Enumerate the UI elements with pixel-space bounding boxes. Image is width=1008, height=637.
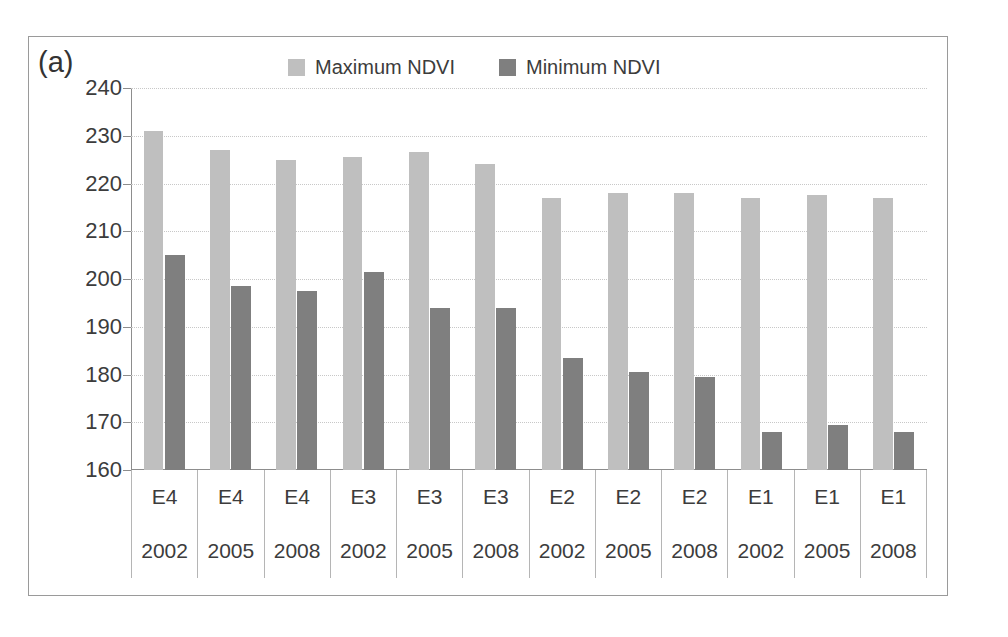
y-axis-tick [123,231,131,232]
legend-swatch-maximum-icon [288,59,305,76]
chart-legend: Maximum NDVI Minimum NDVI [288,56,660,79]
x-axis-site-label: E2 [662,470,727,524]
bar-minimum-ndvi[interactable] [430,308,450,470]
bar-maximum-ndvi[interactable] [475,164,495,470]
bar-group [264,88,330,470]
x-axis-category-cell: E22005 [595,470,661,578]
bar-group [662,88,728,470]
x-axis-year-label: 2002 [530,524,595,578]
x-axis-year-label: 2002 [132,524,197,578]
x-axis-year-label: 2005 [795,524,860,578]
bar-minimum-ndvi[interactable] [297,291,317,470]
bars-layer [131,88,927,470]
x-axis-site-label: E1 [795,470,860,524]
bar-group [529,88,595,470]
x-axis-category-cell: E22008 [661,470,727,578]
y-axis-tick [123,136,131,137]
x-axis-year-label: 2005 [596,524,661,578]
x-axis-site-label: E2 [596,470,661,524]
x-axis-year-label: 2008 [463,524,528,578]
bar-maximum-ndvi[interactable] [343,157,363,470]
x-axis-site-label: E3 [463,470,528,524]
x-axis-year-label: 2005 [198,524,263,578]
x-axis-site-label: E3 [397,470,462,524]
x-axis-site-label: E1 [728,470,793,524]
y-axis-tick [123,375,131,376]
legend-swatch-minimum-icon [499,59,516,76]
bar-group [396,88,462,470]
bar-group [861,88,927,470]
x-axis-site-label: E4 [132,470,197,524]
bar-maximum-ndvi[interactable] [409,152,429,470]
bar-maximum-ndvi[interactable] [807,195,827,470]
y-axis-tick-labels: 240230220210200190180170160 [46,72,122,502]
x-axis-year-label: 2002 [331,524,396,578]
legend-label-maximum: Maximum NDVI [315,56,455,79]
y-axis-tick-label: 240 [85,75,122,101]
bar-minimum-ndvi[interactable] [695,377,715,470]
x-axis-category-table: E42002E42005E42008E32002E32005E32008E220… [131,470,927,578]
x-axis-category-cell: E12002 [727,470,793,578]
bar-minimum-ndvi[interactable] [563,358,583,470]
x-axis-category-cell: E32002 [330,470,396,578]
legend-entry-minimum[interactable]: Minimum NDVI [499,56,660,79]
x-axis-year-label: 2008 [265,524,330,578]
x-axis-category-cell: E42008 [264,470,330,578]
x-axis-category-cell: E42002 [131,470,197,578]
bar-group [794,88,860,470]
legend-entry-maximum[interactable]: Maximum NDVI [288,56,455,79]
y-axis-tick [123,327,131,328]
bar-minimum-ndvi[interactable] [629,372,649,470]
bar-maximum-ndvi[interactable] [873,198,893,470]
x-axis-site-label: E3 [331,470,396,524]
x-axis-category-cell: E22002 [529,470,595,578]
bar-group [330,88,396,470]
bar-group [595,88,661,470]
bar-maximum-ndvi[interactable] [741,198,761,470]
x-axis-category-cell: E12008 [860,470,927,578]
y-axis-tick-label: 170 [85,409,122,435]
x-axis-site-label: E4 [265,470,330,524]
x-axis-category-cell: E32008 [462,470,528,578]
bar-group [131,88,197,470]
bar-minimum-ndvi[interactable] [496,308,516,470]
bar-maximum-ndvi[interactable] [542,198,562,470]
bar-maximum-ndvi[interactable] [674,193,694,470]
y-axis-tick [123,184,131,185]
y-axis-tick [123,422,131,423]
bar-minimum-ndvi[interactable] [231,286,251,470]
bar-maximum-ndvi[interactable] [276,160,296,470]
bar-maximum-ndvi[interactable] [210,150,230,470]
x-axis-site-label: E2 [530,470,595,524]
y-axis-tick-label: 210 [85,218,122,244]
legend-label-minimum: Minimum NDVI [526,56,660,79]
bar-maximum-ndvi[interactable] [144,131,164,470]
x-axis-category-cell: E32005 [396,470,462,578]
y-axis-tick [123,470,131,471]
y-axis-tick-label: 220 [85,171,122,197]
bar-maximum-ndvi[interactable] [608,193,628,470]
y-axis-tick-label: 180 [85,362,122,388]
plot-area [131,88,927,470]
bar-group [463,88,529,470]
bar-minimum-ndvi[interactable] [364,272,384,470]
x-axis-year-label: 2002 [728,524,793,578]
x-axis-year-label: 2008 [861,524,926,578]
bar-minimum-ndvi[interactable] [165,255,185,470]
x-axis-site-label: E1 [861,470,926,524]
bar-minimum-ndvi[interactable] [894,432,914,470]
bar-group [197,88,263,470]
y-axis-tick-label: 200 [85,266,122,292]
y-axis-tick [123,279,131,280]
x-axis-category-cell: E12005 [794,470,860,578]
bar-group [728,88,794,470]
y-axis-tick-label: 190 [85,314,122,340]
bar-minimum-ndvi[interactable] [762,432,782,470]
x-axis-site-label: E4 [198,470,263,524]
y-axis-tick [123,88,131,89]
x-axis-year-label: 2008 [662,524,727,578]
bar-minimum-ndvi[interactable] [828,425,848,470]
y-axis-tick-label: 230 [85,123,122,149]
x-axis-year-label: 2005 [397,524,462,578]
x-axis-category-cell: E42005 [197,470,263,578]
